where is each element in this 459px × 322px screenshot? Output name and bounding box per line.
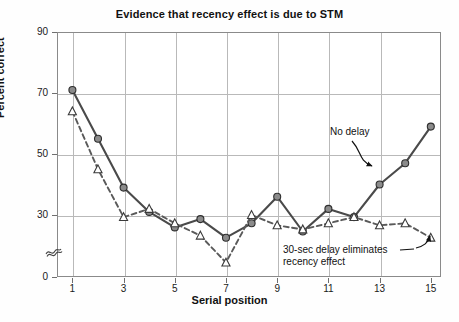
data-point-circle <box>120 184 127 191</box>
data-point-circle <box>325 205 332 212</box>
annotation-leader-delay <box>400 249 414 250</box>
chart-figure: Evidence that recency effect is due to S… <box>0 0 459 322</box>
data-point-triangle <box>196 231 204 239</box>
data-point-circle <box>69 87 76 94</box>
data-point-triangle <box>248 211 256 219</box>
data-point-circle <box>197 216 204 223</box>
page-caption-fragment <box>0 312 459 322</box>
annotation-no-delay: No delay <box>330 126 369 138</box>
annotation-delay-line2: recency effect <box>283 256 345 267</box>
data-point-circle <box>402 160 409 167</box>
annotation-delay-line1: 30-sec delay eliminates <box>283 244 388 255</box>
data-point-circle <box>223 234 230 241</box>
data-point-circle <box>427 123 434 130</box>
data-point-triangle <box>68 107 76 115</box>
data-point-circle <box>274 193 281 200</box>
data-point-circle <box>95 135 102 142</box>
data-point-circle <box>376 181 383 188</box>
data-point-triangle <box>171 219 179 227</box>
data-point-triangle <box>324 219 332 227</box>
series-layer <box>0 0 459 322</box>
annotation-arrow-no-delay <box>352 141 372 166</box>
data-point-triangle <box>94 165 102 173</box>
annotation-30sec-delay: 30-sec delay eliminatesrecency effect <box>283 244 388 268</box>
